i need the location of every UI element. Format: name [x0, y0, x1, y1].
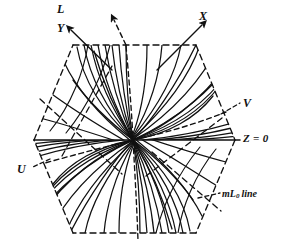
hex-edge-lower-right — [196, 140, 235, 233]
leader-v — [221, 103, 240, 114]
hex-edge-upper-right — [196, 45, 235, 140]
label-ml0-suffix: line — [241, 188, 257, 199]
contour-group-bottom-right — [133, 137, 226, 233]
label-axis-L: L — [57, 3, 64, 15]
label-plane-z-zero: Z = 0 — [243, 133, 269, 144]
contour-figure: L X Y V Z = 0 U mL0line — [0, 0, 288, 251]
axis-arrow-L — [114, 20, 126, 45]
label-ml0-line: mL0line — [222, 189, 257, 200]
contour-group-top-left — [40, 45, 133, 143]
contour-plot-svg — [0, 0, 288, 251]
label-line-V: V — [243, 97, 251, 109]
label-axis-Y: Y — [57, 22, 64, 34]
label-ml0-prefix: mL — [222, 188, 236, 199]
hex-edge-lower-left — [34, 140, 73, 233]
label-axis-X: X — [199, 10, 207, 22]
label-line-U: U — [17, 163, 26, 175]
label-ml0-subscript: 0 — [236, 192, 240, 200]
